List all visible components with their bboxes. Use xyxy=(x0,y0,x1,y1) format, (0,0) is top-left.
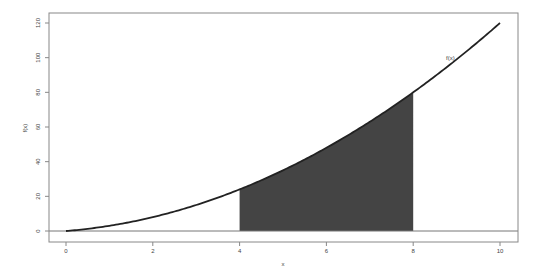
curve-label: f(x) xyxy=(446,55,455,61)
x-axis: 0246810 xyxy=(64,242,504,254)
y-tick-label: 100 xyxy=(35,52,41,63)
x-tick-label: 6 xyxy=(325,248,329,254)
shaded-region xyxy=(240,92,414,231)
y-tick-label: 80 xyxy=(35,88,41,95)
chart: 0246810 020406080100120 f(x) x f(x) xyxy=(0,0,540,276)
y-tick-label: 20 xyxy=(35,192,41,199)
y-tick-label: 120 xyxy=(35,17,41,28)
y-tick-label: 40 xyxy=(35,158,41,165)
y-axis-label: f(x) xyxy=(22,124,28,133)
x-tick-label: 8 xyxy=(412,248,416,254)
plot-area: 0246810 020406080100120 f(x) x f(x) xyxy=(0,0,540,276)
x-axis-label: x xyxy=(282,261,285,267)
shaded-area xyxy=(240,92,414,231)
y-tick-label: 0 xyxy=(35,229,41,233)
y-axis: 020406080100120 xyxy=(35,17,49,232)
x-tick-label: 0 xyxy=(64,248,68,254)
x-tick-label: 2 xyxy=(151,248,155,254)
x-tick-label: 4 xyxy=(238,248,242,254)
y-tick-label: 60 xyxy=(35,123,41,130)
x-tick-label: 10 xyxy=(497,248,504,254)
